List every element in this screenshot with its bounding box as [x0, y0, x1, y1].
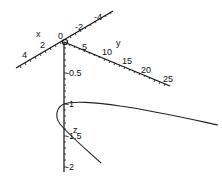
- x-axis-label: x: [36, 29, 41, 39]
- x-tick-label: -2: [75, 22, 83, 32]
- y-tick-label: 10: [102, 47, 112, 57]
- x-tick-label: -4: [94, 12, 102, 22]
- z-tick-label: -1: [66, 99, 74, 109]
- y-axis-label: y: [116, 38, 121, 48]
- y-tick-label: 25: [163, 74, 173, 84]
- x-tick-label: 2: [40, 40, 45, 50]
- x-tick-label: 0: [58, 31, 63, 41]
- z-tick-label: -0.5: [66, 68, 82, 78]
- y-tick-label: 5: [82, 42, 87, 52]
- 3d-plot: x 4 2 0 -2 -4 y 5 10 15 20 25: [0, 0, 222, 182]
- z-axis-label: z: [73, 125, 78, 135]
- z-tick-label: -2: [66, 162, 74, 172]
- y-tick-label: 15: [122, 56, 132, 66]
- x-tick-label: 4: [22, 50, 27, 60]
- y-tick-label: 20: [141, 65, 151, 75]
- z-axis: -0.5 -1 -1.5 -2 z: [64, 42, 82, 172]
- y-axis: y 5 10 15 20 25: [64, 38, 173, 86]
